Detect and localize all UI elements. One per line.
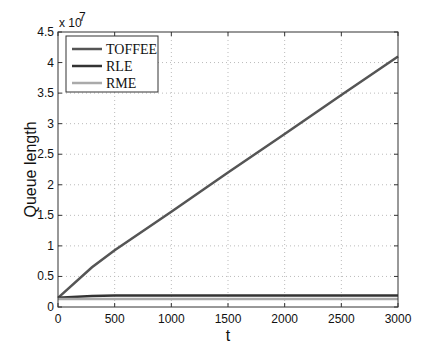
y-tick-label: 2.5: [37, 147, 54, 161]
y-tick-label: 4: [47, 56, 54, 70]
x-tick-label: 3000: [385, 312, 412, 326]
x-tick-label: 0: [55, 312, 62, 326]
y-tick-label: 3.5: [37, 86, 54, 100]
queue-length-chart: 05001000150020002500300000.511.522.533.5…: [0, 0, 429, 350]
y-tick-label: 4.5: [37, 25, 54, 39]
y-multiplier-exponent: 7: [79, 10, 86, 24]
y-tick-label: 2: [47, 178, 54, 192]
x-tick-label: 2500: [328, 312, 355, 326]
legend-label-rme: RME: [106, 76, 136, 91]
x-tick-label: 2000: [271, 312, 298, 326]
x-axis-label: t: [226, 327, 231, 344]
legend-label-rle: RLE: [106, 59, 132, 74]
x-tick-label: 1000: [158, 312, 185, 326]
y-tick-label: 0.5: [37, 269, 54, 283]
y-axis-label: Queue length: [22, 121, 39, 217]
y-tick-label: 3: [47, 117, 54, 131]
legend-label-toffee: TOFFEE: [106, 42, 157, 57]
y-tick-label: 1: [47, 239, 54, 253]
y-tick-label: 1.5: [37, 208, 54, 222]
y-tick-label: 0: [47, 300, 54, 314]
x-tick-label: 1500: [215, 312, 242, 326]
x-tick-label: 500: [105, 312, 125, 326]
